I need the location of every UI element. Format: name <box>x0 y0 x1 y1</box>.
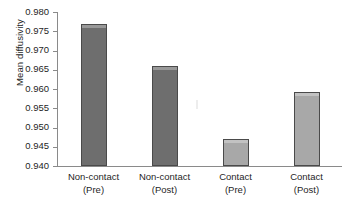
x-axis-label: Non-contact(Post) <box>125 170 205 196</box>
y-tick-label: 0.940 <box>25 160 49 171</box>
x-axis-label-line2: (Pre) <box>54 183 134 196</box>
y-tick-label: 0.955 <box>25 102 49 113</box>
y-tick-label: 0.970 <box>25 44 49 55</box>
x-axis-label-line1: Non-contact <box>68 171 119 182</box>
bar-highlight <box>295 93 319 96</box>
y-tick-label: 0.960 <box>25 83 49 94</box>
x-axis-label-line1: Contact <box>290 171 323 182</box>
plot-area <box>58 12 342 166</box>
x-axis-label: Non-contact(Pre) <box>54 170 134 196</box>
y-tick-mark <box>53 166 57 167</box>
bar-highlight <box>224 140 248 143</box>
x-axis-label: Contact(Pre) <box>196 170 276 196</box>
bar-slot <box>271 12 342 166</box>
bar-slot <box>58 12 129 166</box>
bar-slot <box>200 12 271 166</box>
x-axis-label-line1: Contact <box>219 171 252 182</box>
y-tick-mark <box>53 108 57 109</box>
y-tick-mark <box>53 128 57 129</box>
y-tick-mark <box>53 147 57 148</box>
y-tick-mark <box>53 31 57 32</box>
x-axis-label-line2: (Pre) <box>196 183 276 196</box>
y-tick-label: 0.980 <box>25 6 49 17</box>
x-axis-line <box>57 166 342 167</box>
y-tick-label: 0.965 <box>25 63 49 74</box>
x-axis-label-line2: (Post) <box>267 183 347 196</box>
y-tick-mark <box>53 89 57 90</box>
scan-artifact <box>196 100 198 109</box>
y-tick-mark <box>53 51 57 52</box>
bar-highlight <box>153 67 177 70</box>
x-axis-labels: Non-contact(Pre)Non-contact(Post)Contact… <box>58 170 342 210</box>
y-tick-mark <box>53 12 57 13</box>
y-tick-mark <box>53 70 57 71</box>
y-tick-label: 0.950 <box>25 121 49 132</box>
x-axis-label: Contact(Post) <box>267 170 347 196</box>
bar-slot <box>129 12 200 166</box>
x-axis-label-line1: Non-contact <box>139 171 190 182</box>
bar[interactable] <box>294 92 320 166</box>
y-tick-label: 0.945 <box>25 140 49 151</box>
bar[interactable] <box>81 24 107 166</box>
bar[interactable] <box>223 139 249 166</box>
y-axis-title: Mean diffusivity <box>14 0 25 128</box>
y-tick-label: 0.975 <box>25 25 49 36</box>
bar-highlight <box>82 25 106 28</box>
bar[interactable] <box>152 66 178 166</box>
bar-chart: Mean diffusivity 0.9800.9750.9700.9650.9… <box>0 0 348 210</box>
x-axis-label-line2: (Post) <box>125 183 205 196</box>
